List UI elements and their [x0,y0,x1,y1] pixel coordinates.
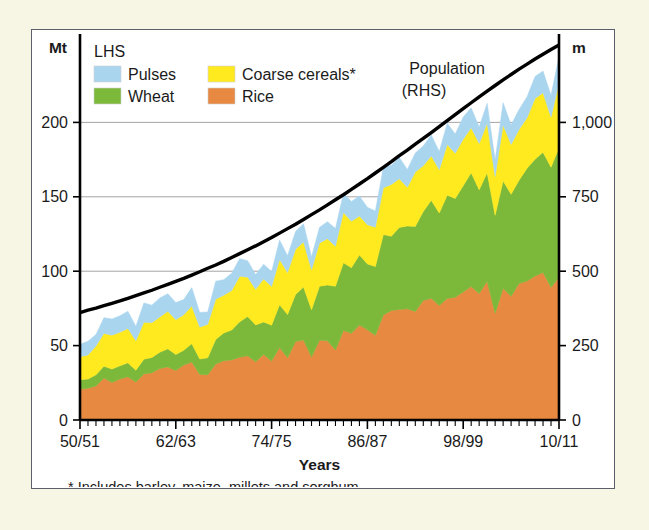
y-axis-unit-left: Mt [49,39,67,56]
x-ticklabel: 62/63 [156,433,196,450]
x-ticklabel: 86/87 [347,433,387,450]
population-annotation-line1: Population [409,60,485,77]
legend-swatch-rice [208,88,235,104]
y-ticklabel-right: 500 [572,263,599,280]
chart-panel: 05010015020002505007501,00050/5162/6374/… [31,29,615,489]
legend-label-wheat: Wheat [128,88,175,105]
legend-swatch-wheat [94,88,121,104]
y-ticklabel-right: 250 [572,337,599,354]
y-ticklabel-right: 0 [572,412,581,429]
footnote: * Includes barley, maize, millets and so… [68,479,359,487]
y-ticklabel-left: 150 [41,188,68,205]
population-annotation-line2: (RHS) [402,82,446,99]
x-ticklabel: 10/11 [540,433,579,450]
legend-label-coarse-cereals-: Coarse cereals* [242,66,356,83]
x-axis-title: Years [299,456,340,473]
legend-label-pulses: Pulses [128,66,176,83]
y-ticklabel-left: 50 [50,337,68,354]
y-axis-unit-right: m [572,39,586,56]
legend-label-rice: Rice [242,88,274,105]
x-ticklabel: 50/51 [60,433,100,450]
y-ticklabel-left: 0 [59,412,68,429]
x-ticklabel: 98/99 [443,433,483,450]
stacked-area-chart: 05010015020002505007501,00050/5162/6374/… [32,30,613,487]
legend-group-label: LHS [94,43,125,60]
legend-swatch-coarse-cereals- [208,66,235,82]
legend-swatch-pulses [94,66,121,82]
y-ticklabel-right: 750 [572,188,599,205]
x-ticklabel: 74/75 [252,433,292,450]
y-ticklabel-left: 200 [41,114,68,131]
y-ticklabel-left: 100 [41,263,68,280]
y-ticklabel-right: 1,000 [572,114,612,131]
